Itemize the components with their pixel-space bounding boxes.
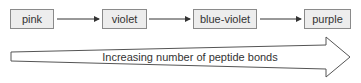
stage-box-blue-violet: blue-violet: [193, 9, 257, 29]
stage-box-violet: violet: [102, 9, 147, 29]
stage-label: violet: [112, 13, 138, 25]
big-arrow-label: Increasing number of peptide bonds: [100, 51, 280, 63]
stage-box-pink: pink: [10, 9, 54, 29]
stage-box-purple: purple: [304, 9, 351, 29]
stage-label: pink: [22, 13, 42, 25]
stage-label: blue-violet: [200, 13, 250, 25]
stage-label: purple: [312, 13, 343, 25]
